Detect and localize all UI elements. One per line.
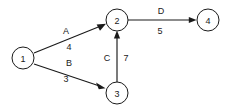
edge-c-name-label: C bbox=[104, 53, 111, 63]
node-1-label: 1 bbox=[20, 54, 25, 64]
node-3[interactable]: 3 bbox=[106, 82, 128, 104]
edge-c: C 7 bbox=[104, 31, 129, 82]
graph-canvas: A 4 B 3 C 7 D 5 1 bbox=[0, 0, 229, 111]
edge-c-weight-label: 7 bbox=[123, 53, 128, 63]
edge-a: A 4 bbox=[34, 24, 106, 53]
node-2[interactable]: 2 bbox=[106, 9, 128, 31]
edge-b-weight-label: 3 bbox=[63, 74, 68, 84]
edge-a-weight-label: 4 bbox=[66, 42, 71, 52]
edge-b-name-label: B bbox=[66, 58, 72, 68]
node-1[interactable]: 1 bbox=[12, 47, 34, 69]
edge-d-name-label: D bbox=[158, 6, 165, 16]
edge-d-arrowhead bbox=[189, 17, 197, 23]
node-4[interactable]: 4 bbox=[197, 9, 219, 31]
edge-d-weight-label: 5 bbox=[157, 26, 162, 36]
edge-b-arrowhead bbox=[96, 83, 106, 90]
node-3-label: 3 bbox=[114, 89, 119, 99]
edge-a-name-label: A bbox=[63, 26, 69, 36]
graph-diagram: A 4 B 3 C 7 D 5 1 bbox=[0, 0, 229, 111]
node-2-label: 2 bbox=[114, 16, 119, 26]
edge-d: D 5 bbox=[128, 6, 197, 36]
edge-c-arrowhead bbox=[114, 31, 120, 39]
node-4-label: 4 bbox=[205, 16, 210, 26]
edge-b: B 3 bbox=[34, 58, 106, 89]
